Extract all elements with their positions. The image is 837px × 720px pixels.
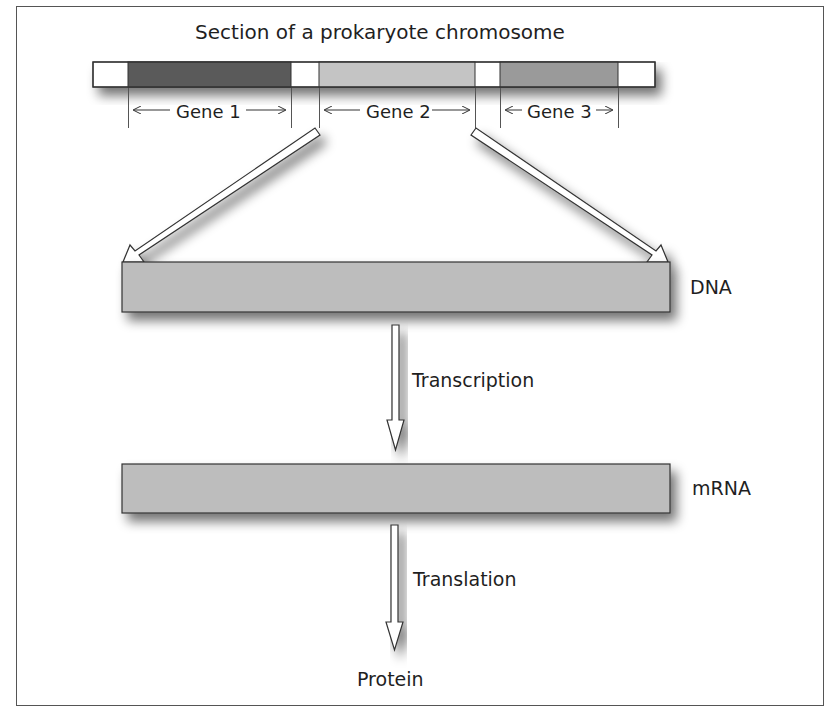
gene-3-segment [500,62,618,87]
gene-2-label: Gene 2 [366,101,431,122]
translation-label: Translation [413,568,517,590]
gene-1-segment [128,62,291,87]
translation-arrow [386,525,403,650]
gene-1-label: Gene 1 [176,101,241,122]
gene-2-segment [319,62,475,87]
mrna-label: mRNA [692,477,751,499]
expand-arrow-left [123,128,320,262]
dna-label: DNA [690,276,732,298]
transcription-label: Transcription [412,369,534,391]
chromosome-segments [93,62,655,87]
diagram-title: Section of a prokaryote chromosome [0,20,760,44]
mrna-box [122,464,670,513]
transcription-arrow [387,325,404,450]
protein-label: Protein [357,668,424,690]
dna-box [122,262,670,312]
expand-arrow-right [471,128,668,262]
gene-3-label: Gene 3 [527,101,592,122]
